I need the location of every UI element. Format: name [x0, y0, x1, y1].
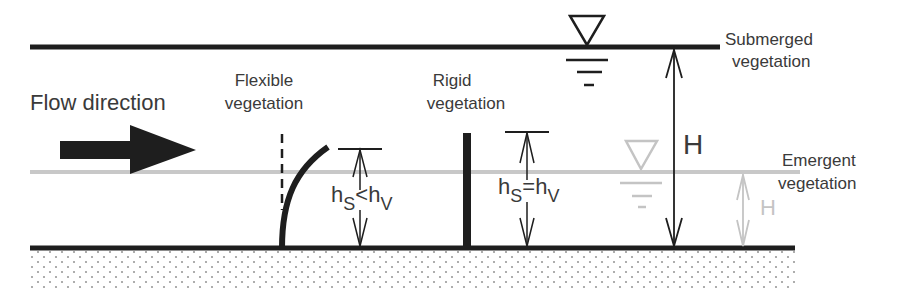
emergent-water-level-icon: [626, 141, 657, 169]
submerged-depth-label: H: [683, 129, 703, 160]
emergent-depth-label: H: [760, 195, 776, 220]
flexible-vegetation-stem: [282, 147, 328, 248]
emergent-vegetation-label-2: vegetation: [778, 174, 856, 193]
rigid-relation-label: hS=hV: [498, 174, 559, 206]
flexible-relation-label: hS<hV: [331, 182, 392, 214]
flexible-vegetation-label-1: Flexible: [235, 71, 294, 90]
emergent-vegetation-label-1: Emergent: [782, 151, 856, 170]
submerged-vegetation-label-2: vegetation: [732, 52, 810, 71]
submerged-vegetation-label-1: Submerged: [725, 30, 813, 49]
submerged-water-level-icon: [570, 16, 604, 45]
vegetation-flow-diagram: Flow direction Flexible vegetation hS<hV…: [0, 0, 907, 296]
rigid-vegetation-stem: [463, 133, 471, 248]
flow-direction-label: Flow direction: [30, 90, 166, 115]
flow-arrow-icon: [60, 125, 196, 174]
sediment-bed: [30, 250, 795, 290]
rigid-vegetation-label-2: vegetation: [427, 94, 505, 113]
flexible-vegetation-label-2: vegetation: [225, 94, 303, 113]
rigid-vegetation-label-1: Rigid: [433, 71, 472, 90]
